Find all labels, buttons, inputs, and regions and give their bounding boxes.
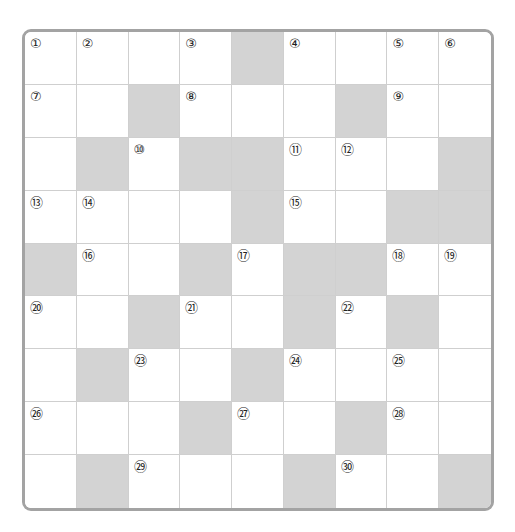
block-cell bbox=[336, 402, 388, 455]
block-cell bbox=[284, 296, 336, 349]
block-cell bbox=[232, 138, 284, 191]
answer-cell[interactable]: ⑧ bbox=[180, 85, 232, 138]
block-cell bbox=[180, 244, 232, 297]
answer-cell[interactable]: ⑤ bbox=[387, 32, 439, 85]
crossword-grid: ①②③④⑤⑥⑦⑧⑨⑩⑪⑫⑬⑭⑮⑯⑰⑱⑲⑳㉑㉒㉓㉔㉕㉖㉗㉘㉙㉚ bbox=[25, 32, 491, 508]
clue-number: ⑫ bbox=[341, 143, 354, 157]
answer-cell[interactable] bbox=[129, 244, 181, 297]
answer-cell[interactable]: ㉚ bbox=[336, 455, 388, 508]
answer-cell[interactable]: ③ bbox=[180, 32, 232, 85]
block-cell bbox=[180, 138, 232, 191]
answer-cell[interactable] bbox=[336, 349, 388, 402]
block-cell bbox=[129, 296, 181, 349]
clue-number: ㉘ bbox=[392, 407, 405, 421]
block-cell bbox=[232, 32, 284, 85]
block-cell bbox=[284, 244, 336, 297]
block-cell bbox=[232, 191, 284, 244]
block-cell bbox=[439, 138, 491, 191]
block-cell bbox=[180, 402, 232, 455]
answer-cell[interactable]: ① bbox=[25, 32, 77, 85]
block-cell bbox=[439, 455, 491, 508]
clue-number: ⑬ bbox=[30, 196, 43, 210]
clue-number: ⑧ bbox=[185, 90, 197, 104]
answer-cell[interactable]: ⑳ bbox=[25, 296, 77, 349]
clue-number: ⑦ bbox=[30, 90, 42, 104]
answer-cell[interactable]: ㉖ bbox=[25, 402, 77, 455]
answer-cell[interactable]: ⑱ bbox=[387, 244, 439, 297]
answer-cell[interactable] bbox=[336, 32, 388, 85]
clue-number: ㉗ bbox=[237, 407, 250, 421]
answer-cell[interactable] bbox=[284, 402, 336, 455]
answer-cell[interactable] bbox=[439, 349, 491, 402]
answer-cell[interactable] bbox=[232, 85, 284, 138]
clue-number: ⑲ bbox=[444, 249, 457, 263]
clue-number: ⑱ bbox=[392, 249, 405, 263]
answer-cell[interactable]: ⑨ bbox=[387, 85, 439, 138]
answer-cell[interactable]: ㉙ bbox=[129, 455, 181, 508]
answer-cell[interactable] bbox=[336, 191, 388, 244]
answer-cell[interactable]: ⑬ bbox=[25, 191, 77, 244]
clue-number: ㉖ bbox=[30, 407, 43, 421]
clue-number: ⑯ bbox=[82, 249, 95, 263]
block-cell bbox=[77, 349, 129, 402]
clue-number: ⑭ bbox=[82, 196, 95, 210]
answer-cell[interactable] bbox=[25, 349, 77, 402]
block-cell bbox=[77, 138, 129, 191]
answer-cell[interactable]: ⑫ bbox=[336, 138, 388, 191]
answer-cell[interactable] bbox=[129, 191, 181, 244]
answer-cell[interactable]: ⑩ bbox=[129, 138, 181, 191]
answer-cell[interactable] bbox=[387, 138, 439, 191]
answer-cell[interactable] bbox=[129, 32, 181, 85]
answer-cell[interactable]: ⑯ bbox=[77, 244, 129, 297]
clue-number: ⑥ bbox=[444, 37, 456, 51]
block-cell bbox=[129, 85, 181, 138]
answer-cell[interactable] bbox=[439, 296, 491, 349]
answer-cell[interactable] bbox=[25, 138, 77, 191]
answer-cell[interactable] bbox=[439, 402, 491, 455]
answer-cell[interactable]: ⑪ bbox=[284, 138, 336, 191]
answer-cell[interactable] bbox=[232, 455, 284, 508]
answer-cell[interactable]: ⑦ bbox=[25, 85, 77, 138]
answer-cell[interactable]: ㉗ bbox=[232, 402, 284, 455]
answer-cell[interactable] bbox=[387, 455, 439, 508]
clue-number: ㉑ bbox=[185, 301, 198, 315]
answer-cell[interactable] bbox=[439, 85, 491, 138]
answer-cell[interactable]: ⑲ bbox=[439, 244, 491, 297]
answer-cell[interactable]: ⑭ bbox=[77, 191, 129, 244]
clue-number: ㉔ bbox=[289, 354, 302, 368]
answer-cell[interactable]: ㉘ bbox=[387, 402, 439, 455]
answer-cell[interactable]: ⑥ bbox=[439, 32, 491, 85]
clue-number: ⑩ bbox=[134, 143, 146, 157]
answer-cell[interactable] bbox=[180, 191, 232, 244]
answer-cell[interactable] bbox=[77, 296, 129, 349]
answer-cell[interactable]: ⑰ bbox=[232, 244, 284, 297]
answer-cell[interactable]: ⑮ bbox=[284, 191, 336, 244]
answer-cell[interactable] bbox=[25, 455, 77, 508]
block-cell bbox=[439, 191, 491, 244]
block-cell bbox=[387, 296, 439, 349]
answer-cell[interactable] bbox=[77, 85, 129, 138]
answer-cell[interactable]: ④ bbox=[284, 32, 336, 85]
answer-cell[interactable] bbox=[129, 402, 181, 455]
answer-cell[interactable]: ㉕ bbox=[387, 349, 439, 402]
block-cell bbox=[25, 244, 77, 297]
answer-cell[interactable] bbox=[180, 455, 232, 508]
answer-cell[interactable]: ㉓ bbox=[129, 349, 181, 402]
clue-number: ㉓ bbox=[134, 354, 147, 368]
answer-cell[interactable]: ㉒ bbox=[336, 296, 388, 349]
answer-cell[interactable]: ㉔ bbox=[284, 349, 336, 402]
answer-cell[interactable]: ② bbox=[77, 32, 129, 85]
clue-number: ㉙ bbox=[134, 460, 147, 474]
block-cell bbox=[336, 244, 388, 297]
block-cell bbox=[336, 85, 388, 138]
answer-cell[interactable] bbox=[232, 296, 284, 349]
clue-number: ② bbox=[82, 37, 94, 51]
answer-cell[interactable] bbox=[284, 85, 336, 138]
answer-cell[interactable] bbox=[77, 402, 129, 455]
answer-cell[interactable]: ㉑ bbox=[180, 296, 232, 349]
clue-number: ③ bbox=[185, 37, 197, 51]
crossword-board: ①②③④⑤⑥⑦⑧⑨⑩⑪⑫⑬⑭⑮⑯⑰⑱⑲⑳㉑㉒㉓㉔㉕㉖㉗㉘㉙㉚ bbox=[22, 29, 494, 511]
clue-number: ⑳ bbox=[30, 301, 43, 315]
clue-number: ① bbox=[30, 37, 42, 51]
answer-cell[interactable] bbox=[180, 349, 232, 402]
